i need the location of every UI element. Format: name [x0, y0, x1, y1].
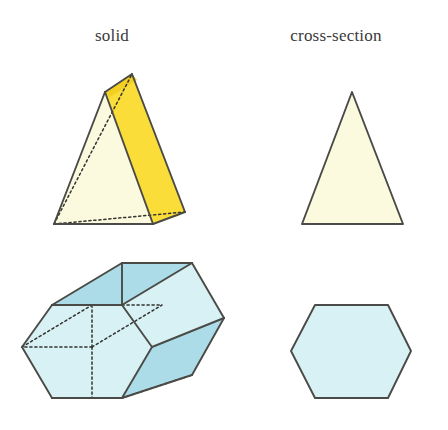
diagram-canvas — [0, 0, 448, 430]
hexagon-cross-section — [291, 305, 411, 398]
triangle-cross-section-shape — [302, 92, 403, 224]
figure-root: solid cross-section — [0, 0, 448, 430]
hexagonal-prism-solid — [22, 263, 224, 398]
triangle-cross-section — [302, 92, 403, 224]
hexagon-cross-section-shape — [291, 305, 411, 398]
triangular-prism-solid — [54, 74, 185, 224]
